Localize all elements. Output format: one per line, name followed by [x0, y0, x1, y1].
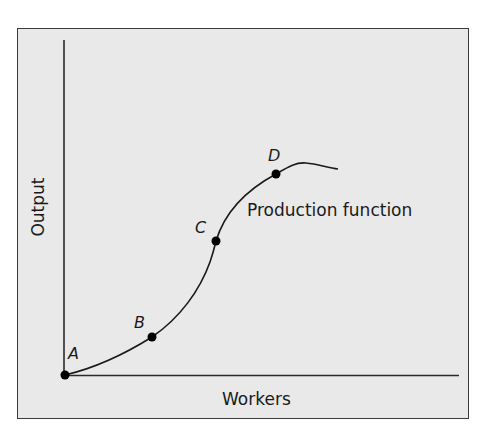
production-function-curve — [65, 163, 338, 375]
x-axis-label: Workers — [222, 389, 291, 409]
point-c-marker — [212, 237, 221, 246]
figure: Output Workers Production function A B C… — [0, 0, 499, 440]
y-axis-label: Output — [28, 177, 48, 236]
point-b-marker — [148, 333, 157, 342]
plot-area — [0, 0, 499, 440]
point-c-label: C — [195, 218, 206, 237]
point-a-marker — [61, 371, 70, 380]
point-d-label: D — [268, 146, 280, 165]
point-a-label: A — [68, 344, 79, 363]
curve-label: Production function — [247, 200, 412, 220]
point-d-marker — [272, 170, 281, 179]
point-b-label: B — [134, 313, 145, 332]
